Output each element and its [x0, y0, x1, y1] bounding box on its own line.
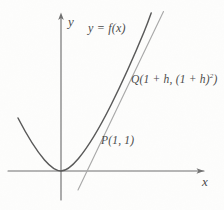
- y-axis-label: y: [68, 15, 74, 28]
- figure-canvas: y x y = f(x) Q(1 + h, (1 + h)2) P(1, 1): [0, 0, 224, 210]
- x-axis-label: x: [202, 175, 208, 188]
- x-axis: [8, 168, 204, 174]
- point-q-label-suffix: ): [214, 73, 218, 85]
- y-axis: [58, 13, 64, 201]
- point-q-label: Q(1 + h, (1 + h)2): [131, 74, 218, 86]
- point-p-label: P(1, 1): [101, 135, 134, 147]
- secant-line: [78, 12, 164, 191]
- point-q-label-prefix: Q(1 + h, (1 + h): [131, 73, 210, 85]
- function-label: y = f(x): [88, 22, 126, 34]
- parabola-curve: [18, 13, 151, 171]
